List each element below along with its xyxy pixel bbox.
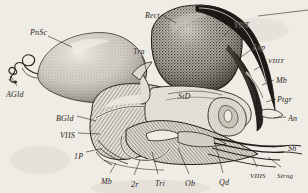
label-viiis_r: VIIIS	[250, 172, 266, 181]
label-mb_r: Mb	[276, 76, 287, 85]
label-two_r: 2r	[131, 180, 139, 189]
label-one_p: 1P	[74, 152, 83, 161]
label-ptgr: Ptgr	[277, 95, 292, 104]
anatomical-plate: PnScAGldTraRectVIITLspVIIITMbPtgrAnShStr…	[0, 0, 308, 193]
label-bgld: BGld	[56, 114, 74, 123]
label-tri: Tri	[155, 179, 165, 188]
label-viit: VIIT	[234, 21, 249, 30]
label-viis: VIIS	[60, 131, 75, 140]
label-std: StD	[178, 92, 191, 101]
label-an: An	[288, 114, 297, 123]
label-qd: Qd	[219, 178, 229, 187]
label-agld: AGld	[6, 90, 24, 99]
label-tra: Tra	[133, 47, 145, 56]
label-strng: Strng	[277, 172, 293, 181]
label-viiit: VIIIT	[268, 57, 284, 66]
label-ob: Ob	[185, 179, 195, 188]
label-sh: Sh	[288, 144, 296, 153]
label-mb_b: Mb	[101, 177, 112, 186]
label-pnsc: PnSc	[30, 28, 47, 37]
label-lsp: Lsp	[253, 43, 265, 52]
label-rect: Rect	[145, 11, 160, 20]
